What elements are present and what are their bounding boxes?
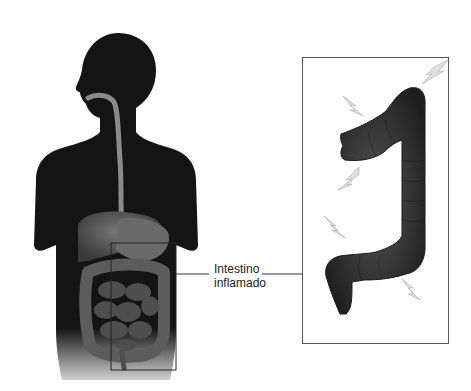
inflamed-intestine-label: Intestino inflamado: [214, 262, 266, 290]
label-line-1: Intestino: [214, 262, 266, 276]
detail-panel-frame: [303, 58, 449, 344]
appendix: [122, 352, 124, 368]
label-line-2: inflamado: [214, 276, 266, 290]
diagram-canvas: [0, 0, 471, 391]
